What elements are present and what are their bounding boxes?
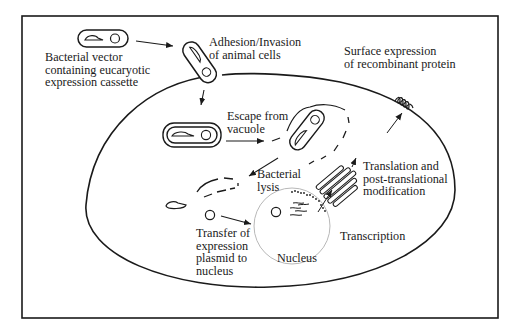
label-adhesion-invasion: Adhesion/Invasion of animal cells	[209, 36, 301, 61]
arrow-to-adhesion	[136, 41, 173, 46]
bacterium-vector-icon	[78, 30, 128, 47]
arrow-to-vacuole	[201, 90, 204, 105]
label-bacterial-vector: Bacterial vector containing eucaryotic e…	[45, 51, 150, 89]
mrna-transcripts-icon	[290, 203, 309, 216]
label-nucleus: Nucleus	[277, 252, 317, 265]
label-line: plasmid to	[196, 252, 250, 265]
label-line: expression cassette	[45, 76, 150, 89]
label-line: Bacterial	[257, 168, 301, 181]
label-line: of recombinant protein	[344, 58, 456, 71]
plasmid-icon	[205, 210, 214, 219]
arrow-to-nucleus	[221, 216, 251, 224]
label-line: Surface expression	[344, 45, 456, 58]
label-line: Adhesion/Invasion	[209, 36, 301, 49]
label-line: Translation and	[363, 160, 448, 173]
label-translation: Translation and post-translational modif…	[363, 160, 448, 198]
label-transfer-plasmid: Transfer of expression plasmid to nucleu…	[196, 227, 250, 277]
label-line: modification	[363, 185, 448, 198]
label-escape-vacuole: Escape from vacuole	[227, 110, 288, 135]
label-line: lysis	[257, 181, 301, 194]
arrow-translation-to-surface	[387, 113, 402, 133]
label-line: vacuole	[227, 123, 288, 136]
label-line: Escape from	[227, 110, 288, 123]
label-line: Transfer of	[196, 227, 250, 240]
label-line: Bacterial vector	[45, 51, 150, 64]
label-line: of animal cells	[209, 49, 301, 62]
arrow-to-surface	[352, 158, 356, 167]
plasmid-in-nucleus-icon	[271, 207, 280, 216]
label-transcription: Transcription	[340, 230, 405, 243]
diagram: Bacterial vector containing eucaryotic e…	[0, 0, 519, 335]
label-bacterial-lysis: Bacterial lysis	[257, 168, 301, 193]
bacterium-in-vacuole-icon	[163, 123, 221, 147]
label-surface-expression: Surface expression of recombinant protei…	[344, 45, 456, 70]
lysed-bacterium-fragments-icon	[166, 178, 238, 209]
endoplasmic-reticulum-icon	[315, 161, 364, 209]
label-line: nucleus	[196, 265, 250, 278]
